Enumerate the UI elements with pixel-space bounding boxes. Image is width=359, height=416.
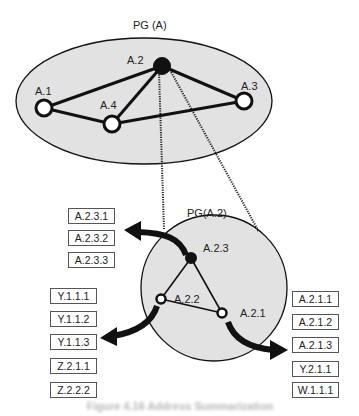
label-pg-a: PG (A) xyxy=(133,19,167,31)
label-a23: A.2.3 xyxy=(203,242,229,254)
node-a21 xyxy=(218,309,227,318)
node-a2 xyxy=(154,58,171,75)
label-a2: A.2 xyxy=(127,54,144,66)
label-a21: A.2.1 xyxy=(240,307,266,319)
address-box: Y.1.1.1 xyxy=(50,288,97,304)
group-pg-a xyxy=(16,38,272,164)
address-box: Y.2.1.1 xyxy=(292,361,339,377)
address-box: A.2.3.3 xyxy=(68,252,115,268)
address-box: Y.1.1.3 xyxy=(50,334,97,350)
label-a1: A.1 xyxy=(35,85,52,97)
address-box: A.2.1.1 xyxy=(292,291,339,307)
label-a3: A.3 xyxy=(241,80,258,92)
figure-caption: Figure 4.16 Address Summarization xyxy=(50,400,310,412)
address-box: A.2.3.2 xyxy=(68,230,115,246)
address-box: A.2.3.1 xyxy=(68,208,115,224)
label-pg-a2: PG(A.2) xyxy=(187,207,227,219)
address-box: Y.1.1.2 xyxy=(50,311,97,327)
node-a3 xyxy=(236,93,252,109)
node-a22 xyxy=(157,295,166,304)
node-a1 xyxy=(36,100,52,116)
label-a4: A.4 xyxy=(100,99,117,111)
address-box: A.2.1.2 xyxy=(292,314,339,330)
node-a4 xyxy=(104,116,120,132)
label-a22: A.2.2 xyxy=(174,293,200,305)
diagram-canvas: PG (A) A.1 A.2 A.3 A.4 PG(A.2) A.2.3 A.2… xyxy=(0,0,359,416)
address-box: Z.2.1.1 xyxy=(50,358,97,374)
address-box: W.1.1.1 xyxy=(292,382,339,398)
address-box: A.2.1.3 xyxy=(292,337,339,353)
address-box: Z.2.2.2 xyxy=(50,382,97,398)
